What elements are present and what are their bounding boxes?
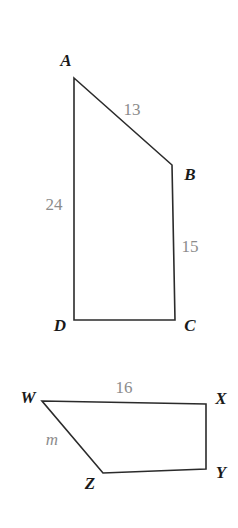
vertex-label-y: Y bbox=[216, 463, 228, 482]
vertex-label-d: D bbox=[53, 316, 66, 335]
vertex-label-x: X bbox=[214, 389, 227, 408]
side-measure-wx: 16 bbox=[116, 378, 133, 397]
geometry-figure-page: A B C D 13 15 24 W X Y Z 16 m bbox=[0, 0, 238, 528]
side-measure-ab: 13 bbox=[124, 100, 141, 119]
vertex-label-w: W bbox=[20, 388, 37, 407]
vertex-label-a: A bbox=[59, 51, 71, 70]
geometry-diagram: A B C D 13 15 24 W X Y Z 16 m bbox=[0, 0, 238, 528]
vertex-label-b: B bbox=[183, 165, 195, 184]
quadrilateral-wxyz-outline bbox=[42, 401, 206, 473]
vertex-label-c: C bbox=[184, 316, 196, 335]
vertex-label-z: Z bbox=[84, 474, 95, 493]
side-measure-ad: 24 bbox=[46, 195, 64, 214]
side-measure-bc: 15 bbox=[182, 237, 199, 256]
side-measure-wz: m bbox=[46, 430, 58, 449]
